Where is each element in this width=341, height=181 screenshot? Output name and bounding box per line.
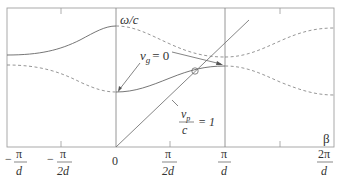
tick-label-neg-pi-2d: − π 2d: [47, 147, 72, 178]
passband-upper-solid-curve: [7, 26, 116, 55]
dispersion-diagram: ω/c vg= 0 vp c = 1 β − π d − π 2d 0 π 2d…: [0, 0, 341, 181]
passband-lower-solid-curve: [116, 66, 225, 92]
svg-text:−: −: [5, 152, 12, 166]
tick-label-2pi-d: 2π d: [317, 147, 333, 178]
space-harmonic-dashed-curve-right-upper: [225, 28, 334, 57]
svg-text:π: π: [16, 147, 22, 161]
svg-text:d: d: [16, 164, 23, 178]
vg-label: vg= 0: [140, 48, 169, 65]
vp-label-num: vp: [181, 107, 190, 123]
tick-label-pi-d: π d: [218, 147, 231, 178]
y-axis-label: ω/c: [120, 12, 139, 27]
tick-label-zero: 0: [112, 154, 118, 168]
svg-text:π: π: [60, 147, 66, 161]
x-axis-label: β: [323, 131, 330, 146]
svg-text:2d: 2d: [57, 164, 70, 178]
svg-text:d: d: [221, 164, 228, 178]
svg-text:π: π: [165, 147, 171, 161]
tick-label-neg-pi-d: − π d: [5, 147, 27, 178]
svg-text:2d: 2d: [162, 164, 175, 178]
svg-text:π: π: [221, 147, 227, 161]
arrow-vg-left: [119, 63, 140, 90]
arrow-vp: [172, 100, 178, 106]
space-harmonic-dashed-curve-left: [7, 65, 116, 92]
vp-label-den: c: [182, 123, 188, 137]
svg-text:2π: 2π: [318, 147, 330, 161]
space-harmonic-dashed-curve-mid: [116, 26, 225, 57]
tick-label-pi-2d: π 2d: [162, 147, 177, 178]
svg-text:d: d: [321, 164, 328, 178]
arrowhead-icon: [216, 61, 223, 65]
vp-label-eq: = 1: [198, 115, 215, 129]
svg-text:−: −: [47, 152, 54, 166]
space-harmonic-dashed-curve-right-lower: [225, 66, 334, 95]
